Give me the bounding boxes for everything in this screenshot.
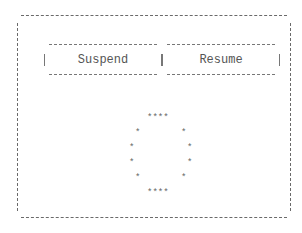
frame-left-border — [17, 23, 18, 211]
frame-bottom-border — [21, 217, 287, 218]
spinner-dot: * — [129, 159, 134, 168]
frame-top-border — [21, 15, 287, 16]
button-right-border — [279, 54, 280, 66]
spinner-dot: * — [181, 174, 186, 183]
spinner-dot: * — [187, 159, 192, 168]
resume-button[interactable]: Resume — [162, 44, 280, 75]
spinner-top-row: **** — [147, 114, 169, 123]
spinner-dot: * — [187, 144, 192, 153]
suspend-button-label: Suspend — [44, 53, 162, 67]
resume-button-label: Resume — [162, 53, 280, 67]
spinner-bottom-row: **** — [147, 189, 169, 198]
spinner-dot: * — [129, 144, 134, 153]
suspend-button[interactable]: Suspend — [44, 44, 162, 75]
button-bottom-border — [49, 74, 157, 75]
spinner-dot: * — [135, 174, 140, 183]
button-bottom-border — [167, 74, 275, 75]
button-top-border — [49, 44, 157, 45]
frame-right-border — [290, 23, 291, 211]
loading-spinner-icon: **** * * * * * * * * **** — [120, 112, 200, 192]
spinner-dot: * — [135, 129, 140, 138]
spinner-dot: * — [181, 129, 186, 138]
button-top-border — [167, 44, 275, 45]
